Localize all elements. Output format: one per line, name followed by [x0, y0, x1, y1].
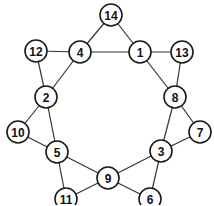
node-label: 5	[54, 146, 61, 160]
nodes-layer: 1441121328107539116	[7, 4, 211, 205]
node-label: 4	[77, 46, 84, 60]
node-label: 12	[29, 45, 43, 59]
node-8: 8	[164, 86, 186, 108]
node-7: 7	[189, 121, 211, 143]
node-label: 8	[172, 91, 179, 105]
node-13: 13	[171, 41, 193, 63]
node-5: 5	[46, 141, 68, 163]
node-2: 2	[35, 86, 57, 108]
node-label: 3	[158, 145, 165, 159]
node-label: 9	[105, 172, 112, 186]
node-10: 10	[7, 121, 29, 143]
node-label: 2	[43, 91, 50, 105]
node-label: 13	[175, 46, 189, 60]
node-label: 10	[11, 126, 25, 140]
node-9: 9	[97, 167, 119, 189]
node-label: 7	[197, 126, 204, 140]
node-label: 14	[104, 9, 118, 23]
node-label: 6	[147, 193, 154, 206]
node-4: 4	[69, 41, 91, 63]
graph-diagram: 1441121328107539116	[0, 0, 214, 205]
node-1: 1	[129, 41, 151, 63]
node-14: 14	[100, 4, 122, 26]
node-3: 3	[150, 140, 172, 162]
node-label: 11	[60, 193, 73, 206]
node-11: 11	[55, 188, 77, 205]
node-label: 1	[137, 46, 144, 60]
node-6: 6	[139, 188, 161, 205]
node-12: 12	[25, 40, 47, 62]
